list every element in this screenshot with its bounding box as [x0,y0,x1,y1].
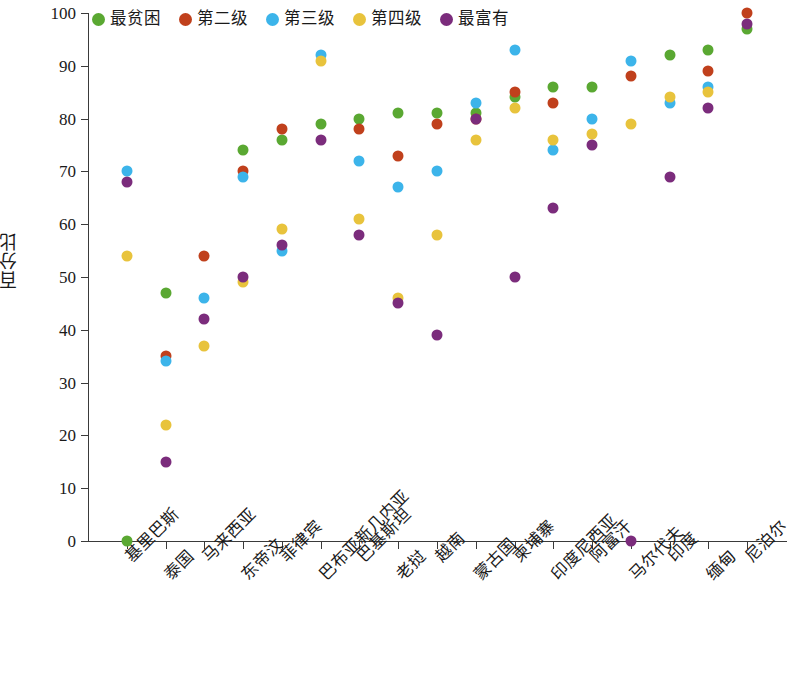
data-point [276,124,287,135]
data-point [393,150,404,161]
x-tick [708,542,709,549]
data-point [548,97,559,108]
y-tick [81,66,88,67]
data-point [664,92,675,103]
x-tick-label: 缅甸 [704,548,740,584]
data-point [703,66,714,77]
y-tick [81,541,88,542]
y-tick [81,119,88,120]
data-point [548,81,559,92]
y-tick [81,488,88,489]
data-point [625,71,636,82]
data-point [625,536,636,547]
y-tick-label: 40 [16,321,76,338]
data-point [625,55,636,66]
data-point [509,272,520,283]
data-point [509,87,520,98]
data-point [276,240,287,251]
x-tick [476,542,477,549]
data-point [199,250,210,261]
data-point [238,272,249,283]
legend-swatch-icon [353,13,366,26]
data-point [509,44,520,55]
legend-swatch-icon [440,13,453,26]
data-point [121,176,132,187]
data-point [432,229,443,240]
legend-swatch-icon [179,13,192,26]
data-point [548,145,559,156]
legend-entry-3: 第四级 [353,11,422,28]
data-point [509,103,520,114]
data-point [742,18,753,29]
data-point [432,118,443,129]
legend-entry-1: 第二级 [179,11,248,28]
data-point [742,8,753,19]
chart-legend: 最贫困第二级第三级第四级最富有 [92,6,509,32]
data-point [121,536,132,547]
y-tick [81,171,88,172]
data-point [664,171,675,182]
x-tick-label: 老挝 [394,548,430,584]
data-point [276,224,287,235]
data-point [354,155,365,166]
data-point [587,140,598,151]
data-point [393,298,404,309]
data-point [432,166,443,177]
data-point [354,229,365,240]
data-point [315,55,326,66]
data-point [238,171,249,182]
x-tick [553,542,554,549]
x-tick [243,542,244,549]
y-tick-label: 90 [16,57,76,74]
data-point [703,44,714,55]
y-tick-label: 60 [16,216,76,233]
legend-swatch-icon [92,13,105,26]
legend-label: 第二级 [197,11,248,28]
data-point [393,182,404,193]
data-point [470,113,481,124]
data-point [160,287,171,298]
data-point [238,145,249,156]
scatter-chart: 最贫困第二级第三级第四级最富有 百分比 01020304050607080901… [0,0,792,675]
x-tick-label: 泰国 [162,548,198,584]
data-point [548,134,559,145]
data-point [664,50,675,61]
y-tick [81,435,88,436]
data-point [548,203,559,214]
data-point [199,340,210,351]
data-point [432,108,443,119]
y-tick-label: 70 [16,163,76,180]
x-tick [398,542,399,549]
y-tick-label: 0 [16,533,76,550]
legend-swatch-icon [266,13,279,26]
data-point [199,293,210,304]
data-point [315,134,326,145]
y-tick-label: 100 [16,5,76,22]
data-point [587,81,598,92]
y-tick [81,330,88,331]
data-point [354,213,365,224]
plot-area [88,13,786,541]
y-tick [81,383,88,384]
y-tick [81,13,88,14]
data-point [121,166,132,177]
x-tick [166,542,167,549]
legend-label: 第四级 [371,11,422,28]
x-tick-label: 东帝汶 [239,536,287,584]
data-point [315,118,326,129]
legend-entry-0: 最贫困 [92,11,161,28]
data-point [703,87,714,98]
data-point [160,419,171,430]
data-point [199,314,210,325]
legend-label: 第三级 [284,11,335,28]
y-tick [81,277,88,278]
data-point [703,103,714,114]
data-point [354,124,365,135]
y-tick-label: 10 [16,480,76,497]
data-point [121,250,132,261]
data-point [432,330,443,341]
data-point [625,118,636,129]
y-tick-label: 20 [16,427,76,444]
legend-entry-2: 第三级 [266,11,335,28]
x-tick [321,542,322,549]
